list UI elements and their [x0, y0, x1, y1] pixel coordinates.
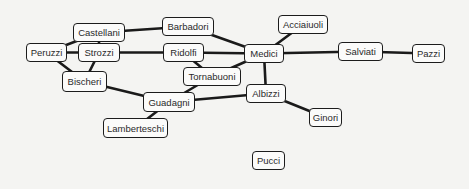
node-albizzi: Albizzi	[246, 84, 286, 103]
node-label: Medici	[250, 48, 277, 59]
node-pazzi: Pazzi	[412, 44, 445, 63]
node-label: Barbadori	[167, 21, 208, 32]
node-label: Ginori	[313, 112, 338, 123]
node-barbadori: Barbadori	[162, 17, 214, 36]
node-lamberteschi: Lamberteschi	[103, 118, 168, 138]
node-ridolfi: Ridolfi	[163, 43, 204, 62]
node-label: Peruzzi	[31, 47, 63, 58]
node-label: Albizzi	[252, 88, 279, 99]
node-label: Lamberteschi	[107, 123, 164, 134]
node-guadagni: Guadagni	[143, 92, 195, 112]
node-acciaiuoli: Acciaiuoli	[278, 15, 328, 34]
node-medici: Medici	[244, 44, 284, 63]
node-label: Ridolfi	[170, 47, 196, 58]
node-pucci: Pucci	[252, 151, 285, 170]
node-label: Guadagni	[148, 97, 189, 108]
node-label: Pazzi	[417, 48, 440, 59]
node-tornabuoni: Tornabuoni	[183, 67, 241, 86]
node-bischeri: Bischeri	[62, 71, 107, 92]
node-label: Castellani	[78, 27, 120, 38]
node-strozzi: Strozzi	[78, 43, 120, 62]
node-ginori: Ginori	[309, 108, 342, 127]
node-label: Strozzi	[84, 47, 113, 58]
node-castellani: Castellani	[73, 23, 125, 42]
node-salviati: Salviati	[338, 42, 383, 61]
edge-layer	[0, 0, 469, 189]
family-network-diagram: CastellaniBarbadoriAcciaiuoliPeruzziStro…	[0, 0, 469, 189]
node-peruzzi: Peruzzi	[26, 43, 67, 62]
node-label: Acciaiuoli	[283, 19, 323, 30]
node-label: Pucci	[257, 155, 280, 166]
node-label: Bischeri	[68, 76, 102, 87]
node-label: Tornabuoni	[188, 71, 235, 82]
node-label: Salviati	[345, 46, 376, 57]
